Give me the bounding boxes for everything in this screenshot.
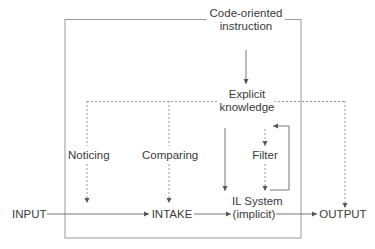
instruction-line1: Code-oriented (207, 7, 285, 20)
node-input: INPUT (12, 208, 45, 221)
node-explicit-knowledge: Explicit knowledge (219, 88, 275, 114)
node-intake: INTAKE (151, 208, 193, 221)
explicit-line1: Explicit (219, 88, 275, 101)
diagram-canvas: Code-oriented instruction Explicit knowl… (0, 0, 375, 249)
node-filter: Filter (250, 149, 280, 162)
il-system-line1: IL System (232, 195, 276, 208)
node-comparing: Comparing (142, 149, 198, 162)
node-instruction: Code-oriented instruction (207, 7, 285, 33)
il-system-line2: (implicit) (232, 208, 276, 221)
instruction-line2: instruction (207, 20, 285, 33)
explicit-line2: knowledge (219, 101, 275, 114)
node-noticing: Noticing (68, 149, 108, 162)
node-il-system: IL System (implicit) (232, 195, 276, 221)
node-output: OUTPUT (318, 208, 368, 221)
